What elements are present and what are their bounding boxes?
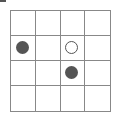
board-cell-r2-c1[interactable] bbox=[36, 61, 61, 86]
board-cell-r0-c3[interactable] bbox=[85, 11, 110, 36]
board-cell-r3-c1[interactable] bbox=[36, 86, 61, 111]
game-board bbox=[10, 10, 111, 112]
filled-circle-icon bbox=[65, 66, 78, 79]
board-cell-r0-c0[interactable] bbox=[11, 11, 36, 36]
board-cell-r2-c0[interactable] bbox=[11, 61, 36, 86]
board-cell-r1-c1[interactable] bbox=[36, 36, 61, 61]
board-cell-r3-c2[interactable] bbox=[61, 86, 86, 111]
corner-mark bbox=[0, 0, 6, 2]
board-cell-r2-c3[interactable] bbox=[85, 61, 110, 86]
filled-circle-icon bbox=[16, 41, 29, 54]
board-cell-r1-c0[interactable] bbox=[11, 36, 36, 61]
board-cell-r2-c2[interactable] bbox=[61, 61, 86, 86]
board-cell-r1-c2[interactable] bbox=[61, 36, 86, 61]
board-cell-r3-c0[interactable] bbox=[11, 86, 36, 111]
open-circle-icon bbox=[65, 41, 78, 54]
board-cell-r0-c2[interactable] bbox=[61, 11, 86, 36]
board-cell-r1-c3[interactable] bbox=[85, 36, 110, 61]
board-cell-r3-c3[interactable] bbox=[85, 86, 110, 111]
board-cell-r0-c1[interactable] bbox=[36, 11, 61, 36]
